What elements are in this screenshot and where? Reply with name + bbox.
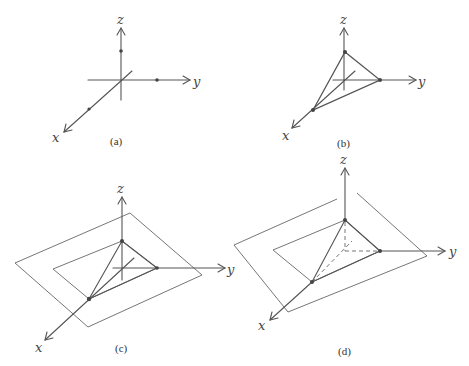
- z-axis-label: z: [116, 181, 124, 196]
- caption-c: (c): [115, 342, 128, 355]
- x-axis-label: x: [35, 340, 43, 355]
- y-intercept-point: [155, 266, 159, 270]
- y-intercept-point: [378, 78, 382, 82]
- z-axis-label: z: [116, 12, 124, 27]
- figure-canvas: z y x (a) z y x (b): [0, 0, 469, 366]
- z-intercept-point: [120, 239, 124, 243]
- x-intercept-point: [310, 280, 314, 284]
- caption-b: (b): [337, 137, 350, 150]
- plane-inner: [273, 220, 380, 282]
- panel-c: z y x (c): [15, 181, 235, 355]
- z-intercept-point: [343, 50, 347, 54]
- y-axis-label: y: [192, 74, 201, 89]
- y-axis-label: y: [417, 74, 426, 89]
- x-axis-label: x: [258, 318, 266, 333]
- x-axis-label: x: [52, 130, 60, 145]
- z-axis-label: z: [339, 152, 347, 167]
- x-intercept-point: [311, 108, 315, 112]
- y-intercept-point: [155, 78, 159, 82]
- panel-a: z y x (a): [52, 12, 201, 148]
- intercept-triangle: [313, 52, 380, 110]
- x-intercept-point: [87, 107, 90, 110]
- caption-d: (d): [338, 345, 351, 358]
- y-axis-label: y: [226, 262, 235, 277]
- x-axis-label: x: [282, 128, 290, 143]
- z-intercept-point: [119, 49, 123, 53]
- z-axis-label: z: [339, 12, 347, 27]
- caption-a: (a): [110, 135, 123, 148]
- panel-b: z y x (b): [282, 12, 426, 150]
- x-intercept-point: [87, 297, 91, 301]
- hidden-x-segment: [312, 241, 352, 282]
- plane-outer: [234, 193, 427, 312]
- panel-d: z y x (d): [234, 152, 457, 358]
- plane-outer: [15, 213, 202, 327]
- z-intercept-point: [343, 218, 347, 222]
- y-axis-label: y: [448, 244, 457, 259]
- y-intercept-point: [378, 249, 382, 253]
